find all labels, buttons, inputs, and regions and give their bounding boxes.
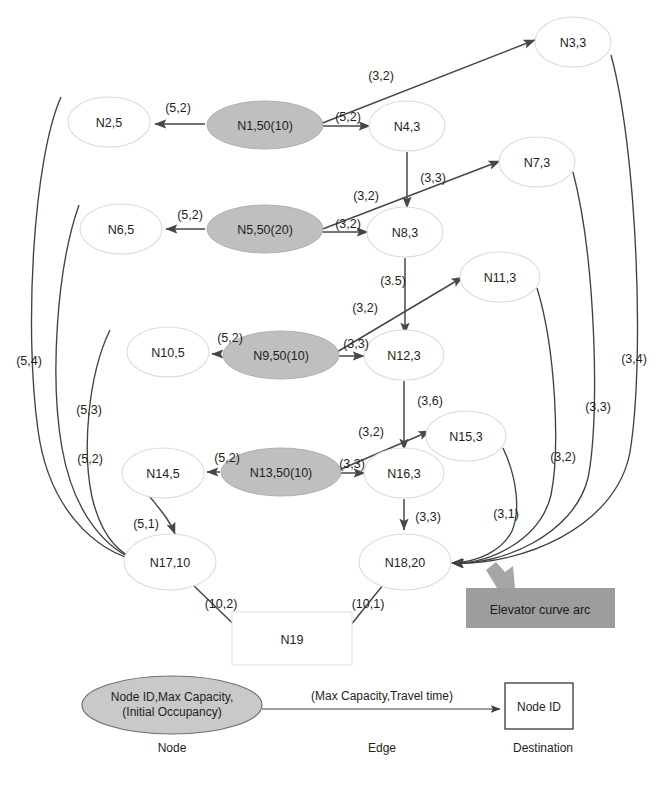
legend-dest-caption: Destination [513, 741, 573, 755]
edge-n3-n18-curve [453, 55, 638, 563]
node-n7[interactable]: N7,3 [499, 137, 575, 187]
edge-label-n4-n8: (3,3) [420, 171, 446, 185]
node-n18-label: N18,20 [385, 556, 425, 570]
edge-n2-n17-curve [31, 97, 143, 562]
node-n4[interactable]: N4,3 [369, 101, 445, 151]
node-n1[interactable]: N1,50(10) [207, 101, 323, 149]
edge-label-n1-n2: (5,2) [165, 101, 191, 115]
edge-label-n1-n4: (5,2) [335, 110, 361, 124]
edge-label-n9-n12: (3,3) [343, 337, 369, 351]
edge-label-n18-n19: (10,1) [352, 597, 385, 611]
edge-label-n13-n14: (5,2) [214, 451, 240, 465]
node-n10-label: N10,5 [151, 346, 184, 360]
edge-label-n8-n12: (3.5) [380, 274, 406, 288]
node-n19-label: N19 [281, 633, 304, 647]
node-n6[interactable]: N6,5 [80, 204, 162, 254]
edge-label-n17-n19: (10,2) [205, 597, 238, 611]
node-n13-label: N13,50(10) [250, 466, 313, 480]
node-n5-label: N5,50(20) [237, 223, 293, 237]
legend-node-line1: Node ID,Max Capacity, [111, 690, 234, 704]
node-n12[interactable]: N12,3 [364, 330, 444, 380]
node-n6-label: N6,5 [108, 223, 134, 237]
legend-edge-label: (Max Capacity,Travel time) [311, 689, 453, 703]
elevator-curves-right [452, 55, 638, 563]
edge-label-n3-n18: (3,4) [621, 352, 647, 366]
legend-node-line2: (Initial Occupancy) [122, 705, 221, 719]
edge-n7-n18-curve [452, 172, 595, 563]
edge-label-n15-n18: (3,1) [493, 507, 519, 521]
node-n18[interactable]: N18,20 [359, 534, 451, 590]
legend: Node ID,Max Capacity, (Initial Occupancy… [82, 676, 573, 755]
callout-label: Elevator curve arc [490, 603, 591, 617]
elevator-callout: Elevator curve arc [466, 562, 615, 628]
edge-label-n9-n11: (3,2) [352, 301, 378, 315]
node-n15-label: N15,3 [449, 430, 482, 444]
node-n8-label: N8,3 [392, 226, 418, 240]
edge-label-n10-n17: (5,2) [77, 452, 103, 466]
node-n15[interactable]: N15,3 [426, 411, 506, 461]
edge-label-n13-n16: (3,3) [339, 457, 365, 471]
edge-label-n14-n17: (5,1) [133, 517, 159, 531]
node-n19[interactable]: N19 [232, 612, 352, 665]
node-n14[interactable]: N14,5 [122, 448, 204, 498]
network-diagram-svg: N2,5 N1,50(10) N4,3 N3,3 N6,5 N5,50(20) … [0, 0, 664, 788]
node-n5[interactable]: N5,50(20) [207, 205, 323, 253]
node-n11[interactable]: N11,3 [460, 252, 540, 302]
node-n10[interactable]: N10,5 [127, 327, 209, 377]
edge-label-n13-n15: (3,2) [358, 425, 384, 439]
node-n16-label: N16,3 [387, 467, 420, 481]
legend-dest-label: Node ID [517, 700, 561, 714]
node-n1-label: N1,50(10) [237, 119, 293, 133]
node-n7-label: N7,3 [524, 156, 550, 170]
edge-label-n1-n3: (3,2) [368, 69, 394, 83]
node-n9-label: N9,50(10) [253, 349, 309, 363]
edge-n15-n18-curve [452, 448, 517, 563]
edge-label-n11-n18: (3,2) [550, 450, 576, 464]
node-n14-label: N14,5 [146, 467, 179, 481]
node-n2[interactable]: N2,5 [68, 97, 150, 147]
node-n17[interactable]: N17,10 [124, 534, 216, 590]
edge-label-n12-n16: (3,6) [417, 394, 443, 408]
node-n2-label: N2,5 [96, 116, 122, 130]
node-n16[interactable]: N16,3 [364, 448, 444, 498]
row2-edges [166, 161, 500, 334]
legend-node-caption: Node [158, 741, 187, 755]
edge-label-n7-n18: (3,3) [585, 400, 611, 414]
edge-label-n5-n6: (5,2) [177, 208, 203, 222]
node-n8[interactable]: N8,3 [367, 207, 443, 257]
node-n11-label: N11,3 [484, 271, 516, 285]
callout-pointer-icon [486, 562, 515, 588]
edge-label-n5-n7: (3,2) [353, 189, 379, 203]
edge-label-n6-n17: (5,3) [76, 403, 102, 417]
edge-label-n9-n10: (5,2) [217, 331, 243, 345]
diagram-canvas: N2,5 N1,50(10) N4,3 N3,3 N6,5 N5,50(20) … [0, 0, 664, 788]
elevator-curves-left [31, 97, 143, 563]
node-n12-label: N12,3 [387, 349, 420, 363]
legend-edge-caption: Edge [368, 741, 396, 755]
edge-label-n2-n17: (5,4) [16, 354, 42, 368]
edge-label-n5-n8: (3,2) [335, 217, 361, 231]
node-n3-label: N3,3 [560, 36, 586, 50]
edge-n6-n17-curve [56, 205, 143, 563]
node-n4-label: N4,3 [394, 120, 420, 134]
node-n3[interactable]: N3,3 [535, 17, 611, 67]
edge-label-n16-n18: (3,3) [415, 510, 441, 524]
node-n17-label: N17,10 [150, 556, 190, 570]
